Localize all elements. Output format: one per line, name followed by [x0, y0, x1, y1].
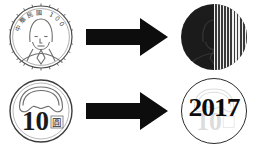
- coin-reverse-graphic: 10 圓: [6, 76, 76, 146]
- transformation-row-top: 中華民國 100 年: [0, 0, 255, 74]
- coin-denomination-text: 10: [22, 106, 49, 136]
- split-disc: [181, 4, 247, 70]
- coin-unit-character: 圓: [52, 117, 62, 128]
- arrow-bottom-graphic: [84, 89, 170, 133]
- ghost-denomination-text: 10: [196, 107, 222, 136]
- result-bottom-graphic: 10 2017: [181, 78, 247, 144]
- coin-obverse-svg: 中華民國 100 年: [6, 2, 76, 72]
- figure-canvas: 中華民國 100 年: [0, 0, 255, 149]
- coin-reverse-svg: 10 圓: [6, 76, 76, 146]
- arrow-right-shape: [86, 92, 168, 130]
- arrow-right-icon: [84, 89, 170, 133]
- arrow-bottom: [82, 74, 172, 148]
- transformation-row-bottom: 10 圓: [0, 74, 255, 148]
- coin-obverse-graphic: 中華民國 100 年: [6, 2, 76, 72]
- split-disc-right-half: [214, 4, 247, 70]
- source-coin-portrait: 中華民國 100 年: [2, 0, 80, 74]
- ghost-unit-box: [223, 116, 234, 127]
- arrow-top-graphic: [84, 15, 170, 59]
- ghost-ten-coin-icon: 10: [182, 79, 246, 143]
- arrow-right-shape: [86, 18, 168, 56]
- source-coin-ten: 10 圓: [2, 74, 80, 148]
- result-split-disc: [174, 0, 254, 74]
- year-overlay-disc: 10 2017: [181, 78, 247, 144]
- result-top-graphic: [181, 4, 247, 70]
- arrow-top: [82, 0, 172, 74]
- split-disc-left-half: [181, 4, 214, 70]
- arrow-right-icon: [84, 15, 170, 59]
- result-year-disc: 10 2017: [174, 74, 254, 148]
